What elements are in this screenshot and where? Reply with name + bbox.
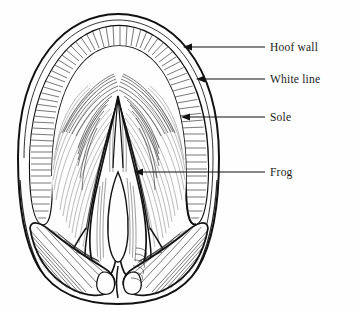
hoof-anatomy-figure: Hoof wall White line Sole Frog [0,0,359,311]
label-white-line: White line [270,73,320,85]
bulb-pad-left [97,272,115,294]
label-frog: Frog [270,166,293,179]
label-hoof-wall: Hoof wall [270,41,318,53]
hoof-diagram-svg: Hoof wall White line Sole Frog [0,0,359,311]
hoof-illustration [18,14,219,304]
bulb-pad-right [123,272,141,294]
label-sole: Sole [270,111,291,123]
